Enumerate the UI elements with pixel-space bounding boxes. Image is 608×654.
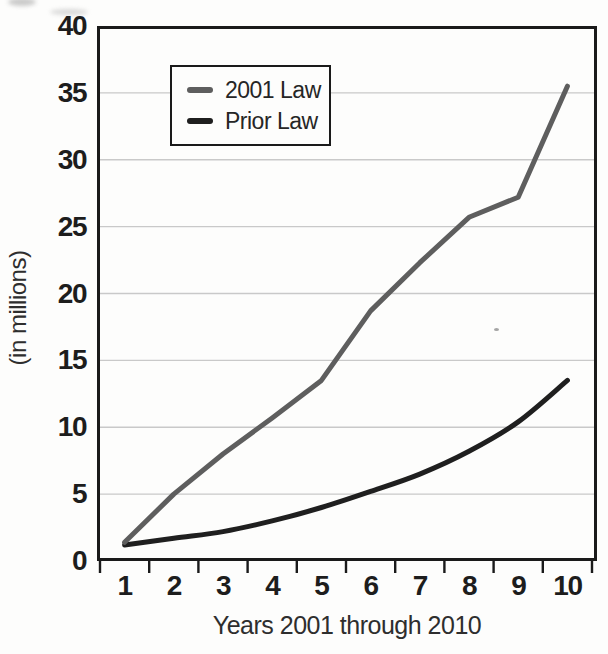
x-tick-label-5: 5 [297, 571, 345, 601]
y-tick-label-10: 10 [0, 411, 86, 443]
x-tick-label-1: 1 [101, 571, 149, 601]
legend-item-2001-law: 2001 Law [187, 78, 329, 102]
legend-swatch-2001-law [187, 87, 213, 93]
x-tick-label-9: 9 [494, 571, 542, 601]
y-tick-label-15: 15 [0, 344, 86, 376]
series-line-prior-law [125, 380, 568, 545]
x-tick-label-10: 10 [543, 571, 591, 601]
plot-area: 2001 LawPrior Law [97, 26, 597, 561]
x-tick-label-8: 8 [445, 571, 493, 601]
legend-swatch-prior-law [187, 118, 213, 124]
series-line-2001-law [125, 86, 568, 542]
x-tick-label-4: 4 [248, 571, 296, 601]
x-tick-label-3: 3 [199, 571, 247, 601]
x-tick-label-2: 2 [150, 571, 198, 601]
figure-root: (in millions) 2001 LawPrior Law 05101520… [0, 0, 608, 654]
legend-label-2001-law: 2001 Law [225, 77, 321, 104]
scan-smudge [8, 0, 36, 6]
y-tick-label-20: 20 [0, 278, 86, 310]
y-tick-label-30: 30 [0, 144, 86, 176]
y-tick-label-0: 0 [0, 545, 86, 577]
y-tick-label-40: 40 [0, 10, 86, 42]
y-tick-label-25: 25 [0, 211, 86, 243]
legend: 2001 LawPrior Law [170, 65, 331, 146]
y-tick-label-5: 5 [0, 478, 86, 510]
legend-item-prior-law: Prior Law [187, 109, 329, 133]
legend-label-prior-law: Prior Law [225, 108, 318, 135]
y-tick-label-35: 35 [0, 77, 86, 109]
x-tick-label-7: 7 [396, 571, 444, 601]
x-tick-label-6: 6 [347, 571, 395, 601]
x-axis-title: Years 2001 through 2010 [97, 609, 597, 641]
